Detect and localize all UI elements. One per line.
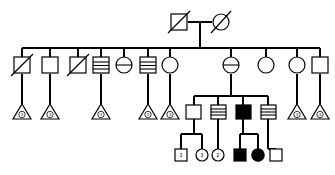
person-II-1[interactable] bbox=[11, 54, 33, 76]
person-IV-6[interactable] bbox=[270, 149, 282, 161]
person-II-6[interactable] bbox=[140, 57, 156, 73]
person-II-5[interactable] bbox=[116, 57, 132, 73]
count-label: 3 bbox=[201, 152, 204, 158]
person-IV-3[interactable]: 2 bbox=[212, 149, 224, 161]
person-III-9[interactable] bbox=[261, 105, 276, 119]
person-III-10[interactable]: 3 bbox=[288, 104, 306, 119]
person-II-7[interactable] bbox=[162, 57, 178, 73]
person-II-11[interactable] bbox=[312, 57, 328, 73]
connector-lines bbox=[22, 22, 320, 150]
count-label: 2 bbox=[217, 152, 220, 158]
person-II-8[interactable] bbox=[223, 57, 239, 73]
person-IV-4[interactable] bbox=[234, 149, 246, 161]
pedigree-canvas: 3 3 3 3 3 bbox=[0, 0, 335, 175]
person-II-9[interactable] bbox=[258, 57, 274, 73]
person-III-7[interactable] bbox=[211, 105, 226, 119]
person-III-3[interactable]: 3 bbox=[92, 104, 110, 119]
pedigree-chart: 3 3 3 3 3 bbox=[0, 0, 335, 175]
count-label: 3 bbox=[180, 152, 183, 158]
person-IV-2[interactable]: 3 bbox=[196, 149, 208, 161]
person-III-1[interactable]: 3 bbox=[13, 104, 31, 119]
person-III-6[interactable] bbox=[186, 105, 201, 119]
person-III-8[interactable] bbox=[236, 105, 251, 119]
person-IV-1[interactable]: 3 bbox=[175, 149, 187, 161]
person-II-2[interactable] bbox=[42, 57, 58, 73]
person-II-3[interactable] bbox=[67, 54, 89, 76]
person-I-1[interactable] bbox=[168, 11, 190, 33]
person-III-5[interactable]: 3 bbox=[161, 104, 179, 119]
person-I-2[interactable] bbox=[211, 11, 231, 33]
person-IV-5[interactable] bbox=[252, 149, 264, 161]
person-III-2[interactable]: 3 bbox=[41, 104, 59, 119]
person-III-4[interactable]: 3 bbox=[139, 104, 157, 119]
person-II-4[interactable] bbox=[93, 57, 109, 73]
person-III-11[interactable]: 3 bbox=[311, 104, 329, 119]
person-II-10[interactable] bbox=[289, 57, 305, 73]
